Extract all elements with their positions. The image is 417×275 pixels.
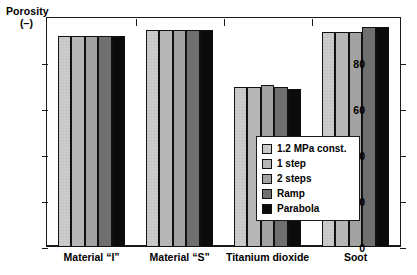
- legend-item: Parabola: [262, 201, 354, 216]
- legend-item-label: 2 steps: [277, 174, 311, 184]
- legend-item-label: 1.2 MPa const.: [277, 144, 346, 154]
- bar: [112, 36, 126, 247]
- legend-swatch-icon: [262, 204, 272, 214]
- legend-item-label: Parabola: [277, 204, 319, 214]
- y-axis-title: Porosity: [6, 6, 49, 18]
- y-tick-80: [42, 64, 48, 65]
- legend-swatch-icon: [262, 144, 272, 154]
- bar: [173, 30, 187, 248]
- x-category-label: Material “I”: [64, 251, 120, 263]
- legend-item: 1.2 MPa const.: [262, 141, 354, 156]
- x-group-divider-tick: [224, 19, 225, 26]
- bar: [71, 36, 85, 247]
- bar: [85, 36, 99, 247]
- y-tick-label-60: 60: [353, 104, 365, 116]
- x-group-divider-tick: [136, 19, 137, 26]
- bar: [376, 27, 390, 247]
- y-tick-right-60: [400, 110, 406, 111]
- bar: [58, 36, 72, 247]
- x-category-label: Soot: [344, 251, 367, 263]
- legend-item-label: 1 step: [277, 159, 306, 169]
- legend-item-label: Ramp: [277, 189, 305, 199]
- bar: [146, 30, 160, 248]
- bar: [159, 30, 173, 248]
- bar-chart: Porosity (–) 020406080 Material “I”Mater…: [0, 0, 417, 275]
- legend-item: Ramp: [262, 186, 354, 201]
- y-tick-right-0: [400, 248, 406, 249]
- y-tick-right-40: [400, 156, 406, 157]
- bar: [200, 30, 214, 248]
- legend-item: 2 steps: [262, 171, 354, 186]
- legend: 1.2 MPa const.1 step2 stepsRampParabola: [256, 136, 360, 221]
- legend-swatch-icon: [262, 159, 272, 169]
- legend-swatch-icon: [262, 174, 272, 184]
- x-category-label: Titanium dioxide: [226, 251, 309, 263]
- legend-swatch-icon: [262, 189, 272, 199]
- x-group-divider-tick: [312, 19, 313, 26]
- y-tick-40: [42, 156, 48, 157]
- y-tick-20: [42, 202, 48, 203]
- y-tick-60: [42, 110, 48, 111]
- y-tick-label-80: 80: [353, 58, 365, 70]
- legend-item: 1 step: [262, 156, 354, 171]
- y-tick-right-80: [400, 64, 406, 65]
- x-category-label: Material “S”: [150, 251, 210, 263]
- y-axis-unit: (–): [20, 18, 33, 30]
- bar: [234, 87, 248, 247]
- bar: [186, 30, 200, 248]
- y-tick-0: [42, 248, 48, 249]
- y-tick-right-20: [400, 202, 406, 203]
- bar: [98, 36, 112, 247]
